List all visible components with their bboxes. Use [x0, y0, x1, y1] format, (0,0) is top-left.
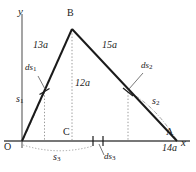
arc-label-s2: s2 — [152, 96, 159, 107]
vertex-label-c: C — [63, 127, 70, 137]
x-axis-label: x — [181, 137, 186, 148]
side-length-bc: 12a — [75, 78, 90, 88]
vertex-label-o: O — [4, 142, 11, 152]
geometry-figure: y x O B A C 13a 15a 12a 14a s1 s2 s3 ds1… — [0, 0, 196, 172]
leader-ds2 — [129, 73, 143, 89]
side-length-ba: 15a — [102, 40, 117, 50]
vertex-label-b: B — [67, 8, 74, 18]
arc-label-s1: s1 — [16, 94, 23, 105]
side-length-ob: 13a — [33, 40, 48, 50]
differential-label-ds3: ds3 — [104, 152, 116, 162]
s3-arc — [23, 145, 93, 151]
leader-ds1 — [38, 76, 45, 89]
y-axis-label: y — [18, 6, 23, 17]
side-length-oa: 14a — [162, 143, 177, 153]
differential-label-ds2: ds2 — [141, 61, 153, 71]
differential-label-ds1: ds1 — [25, 63, 37, 73]
vertex-label-a: A — [166, 127, 173, 137]
arc-label-s3: s3 — [53, 152, 60, 163]
